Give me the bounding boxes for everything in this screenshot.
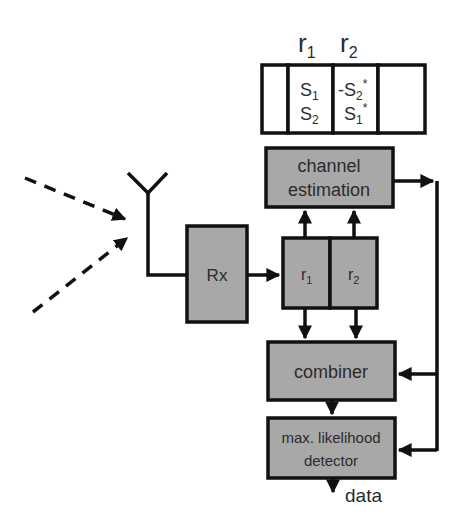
channel-estimate-feedback — [393, 181, 437, 451]
incoming-signal-arrow-1 — [25, 178, 125, 219]
receiver-block-diagram: r1 r2 S1 S2 -S2* S1* Rx channel estimati… — [0, 0, 465, 528]
svg-text:channel: channel — [297, 156, 360, 176]
buffer-r1 — [283, 238, 330, 308]
antenna-icon — [128, 173, 187, 275]
svg-text:combiner: combiner — [294, 362, 368, 382]
incoming-signal-arrow-2 — [33, 238, 127, 312]
frame-header-r1: r1 — [298, 28, 316, 61]
frame-cell-empty-left — [262, 65, 288, 133]
rx-block: Rx — [187, 226, 247, 322]
symbol-frame: S1 S2 -S2* S1* — [262, 65, 425, 133]
channel-estimation-block: channel estimation — [266, 148, 393, 207]
combiner-block: combiner — [268, 342, 395, 400]
frame-header-r2: r2 — [340, 28, 358, 61]
frame-cell-empty-right — [378, 65, 425, 133]
svg-text:Rx: Rx — [207, 266, 228, 285]
buffer-block: r1 r2 — [283, 238, 377, 308]
svg-text:estimation: estimation — [288, 180, 370, 200]
svg-text:r2: r2 — [340, 28, 358, 61]
data-output-label: data — [345, 485, 382, 506]
ml-detector-block: max. likelihood detector — [268, 418, 395, 478]
svg-text:max. likelihood: max. likelihood — [281, 429, 380, 446]
svg-text:r1: r1 — [298, 28, 316, 61]
buffer-r2 — [330, 238, 377, 308]
svg-text:detector: detector — [304, 452, 358, 469]
